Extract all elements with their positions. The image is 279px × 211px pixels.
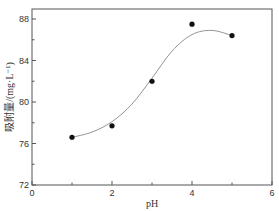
data-points — [69, 22, 234, 140]
x-tick-label: 4 — [189, 188, 194, 198]
y-tick-label: 72 — [19, 180, 29, 190]
y-axis-label: 吸附量/(mg·L⁻¹) — [3, 62, 16, 132]
x-axis-ticks: 0246 — [29, 181, 274, 198]
x-axis-label: pH — [146, 198, 158, 209]
y-tick-label: 80 — [19, 97, 29, 107]
y-tick-label: 84 — [19, 56, 29, 66]
x-tick-label: 6 — [269, 188, 274, 198]
plot-frame — [32, 9, 272, 185]
data-point — [69, 135, 74, 140]
chart: 7276808488 0246 pH 吸附量/(mg·L⁻¹) — [0, 0, 279, 211]
y-axis-ticks: 7276808488 — [19, 14, 36, 190]
data-point — [189, 22, 194, 27]
data-point — [229, 33, 234, 38]
x-tick-label: 0 — [29, 188, 34, 198]
x-tick-label: 2 — [109, 188, 114, 198]
y-tick-label: 76 — [19, 139, 29, 149]
data-point — [109, 123, 114, 128]
data-point — [149, 79, 154, 84]
y-tick-label: 88 — [19, 14, 29, 24]
